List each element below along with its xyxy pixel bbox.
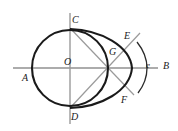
point-label-G: G	[109, 47, 116, 57]
figure-canvas	[0, 0, 178, 131]
point-label-B: B	[163, 61, 169, 71]
point-label-C: C	[72, 15, 79, 25]
point-label-e: e	[146, 60, 150, 70]
geometry-figure: A B C D E F G O e	[0, 0, 178, 131]
point-label-D: D	[71, 112, 78, 122]
arc-near-e-lower	[138, 68, 147, 93]
point-label-A: A	[22, 73, 28, 83]
point-label-F: F	[121, 95, 127, 105]
point-label-O: O	[64, 57, 71, 67]
chord-D-to-E	[70, 33, 140, 108]
point-label-E: E	[124, 31, 130, 41]
